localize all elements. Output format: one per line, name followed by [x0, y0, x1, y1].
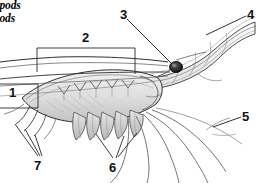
callout-label-7: 7	[34, 159, 41, 172]
shrimp-line-drawing	[0, 0, 257, 183]
callout-label-4: 4	[247, 8, 254, 21]
caption-line-1: opods	[0, 0, 20, 12]
eye-highlight	[172, 64, 176, 67]
callout-label-1: 1	[9, 86, 16, 99]
callout-label-5: 5	[242, 110, 249, 123]
shrimp-anatomy-figure: opods pods 1 2 3 4 5 6 7	[0, 0, 257, 183]
callout-label-2: 2	[82, 31, 89, 44]
caption-line-2: pods	[0, 12, 20, 25]
figure-caption: opods pods	[0, 0, 20, 25]
callout-label-3: 3	[120, 8, 127, 21]
callout-label-6: 6	[109, 161, 116, 174]
